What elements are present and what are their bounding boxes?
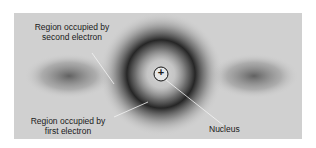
label-first-electron: Region occupied by first electron <box>18 116 118 136</box>
label-second-electron: Region occupied by second electron <box>22 22 122 42</box>
label-nucleus: Nucleus <box>209 124 240 134</box>
nucleus-plus-icon: + <box>154 67 168 77</box>
orbital-diagram: + Region occupied by second electron Reg… <box>14 13 302 139</box>
